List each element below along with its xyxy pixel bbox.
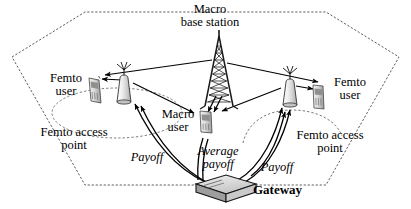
- gateway-box-icon: [196, 175, 256, 202]
- macro-base-station-tower-icon: [200, 30, 238, 109]
- label-macro-user: Macro user: [150, 108, 206, 134]
- link-femto-ap-right-to-femto-user-right: [296, 86, 313, 89]
- label-macro-base-station: Macro base station: [150, 3, 270, 29]
- link-macro-bs-to-femto-user-right: [227, 63, 318, 82]
- network-architecture-diagram: Macro base station Femto user Femto acce…: [0, 0, 411, 209]
- diagram-canvas: [0, 0, 411, 209]
- femto-access-point-right-icon: [283, 66, 297, 107]
- label-average-payoff: Average payoff: [186, 145, 250, 171]
- label-payoff-left: Payoff: [122, 151, 172, 164]
- label-femto-user-left: Femto user: [38, 72, 94, 98]
- link-femto-ap-left-to-femto-user-left: [102, 79, 122, 80]
- label-gateway: Gateway: [253, 183, 319, 196]
- label-femto-access-point-right: Femto access point: [278, 129, 382, 155]
- label-payoff-right: Payoff: [252, 161, 302, 174]
- label-femto-user-right: Femto user: [322, 76, 378, 102]
- femto-access-point-left-icon: [117, 62, 131, 104]
- label-femto-access-point-left: Femto access point: [22, 126, 126, 152]
